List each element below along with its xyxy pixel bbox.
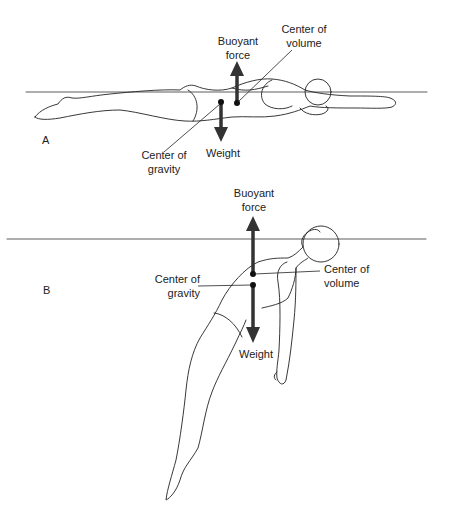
gravity-leader-a	[164, 104, 220, 152]
gravity-label-b-line1: Center of	[150, 272, 200, 286]
volume-leader-b	[254, 271, 320, 274]
gravity-label-a-line2: gravity	[132, 162, 196, 176]
center-of-volume-label-a: Center of volume	[272, 22, 336, 50]
swimmer-a-suit	[188, 90, 197, 121]
swimmer-a-shoulder	[261, 80, 292, 109]
volume-label-b-line2: volume	[324, 276, 369, 290]
volume-label-a-line2: volume	[272, 36, 336, 50]
swimmer-b-suit	[214, 313, 242, 337]
buoyant-arrow-a-head	[230, 61, 244, 76]
buoyancy-diagram	[0, 0, 449, 518]
buoyant-label-a-line2: force	[210, 48, 266, 62]
buoyant-label-b-line2: force	[226, 200, 282, 214]
center-of-gravity-dot-a	[218, 99, 224, 105]
weight-label-b: Weight	[234, 347, 278, 361]
volume-label-a-line1: Center of	[272, 22, 336, 36]
panel-a-forces	[164, 50, 292, 152]
gravity-leader-b	[198, 285, 252, 286]
gravity-label-b-line2: gravity	[150, 286, 200, 300]
panel-letter-a: A	[42, 134, 49, 146]
weight-arrow-b-head	[246, 327, 260, 343]
buoyant-force-label-b: Buoyant force	[226, 186, 282, 214]
buoyant-force-label-a: Buoyant force	[210, 34, 266, 62]
buoyant-label-a-line1: Buoyant	[210, 34, 266, 48]
swimmer-a-body	[35, 79, 396, 121]
gravity-label-a-line1: Center of	[132, 148, 196, 162]
buoyant-label-b-line1: Buoyant	[226, 186, 282, 200]
panel-b-forces	[198, 216, 320, 343]
panel-letter-b: B	[43, 284, 50, 296]
volume-label-b-line1: Center of	[324, 262, 369, 276]
panel-a-drawing	[26, 79, 427, 121]
swimmer-b-arm-back	[277, 258, 308, 384]
center-of-volume-label-b: Center of volume	[324, 262, 369, 290]
center-of-gravity-label-b: Center of gravity	[150, 272, 200, 300]
buoyant-arrow-b-head	[246, 216, 260, 231]
weight-arrow-a-head	[214, 127, 228, 142]
center-of-gravity-label-a: Center of gravity	[132, 148, 196, 176]
weight-label-a: Weight	[201, 146, 245, 160]
